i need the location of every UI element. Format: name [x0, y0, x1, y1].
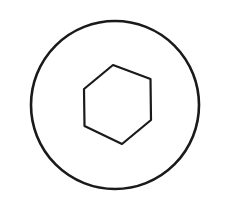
drawing-canvas: Hex socket end view Outer circle with an… — [0, 0, 228, 212]
figure-background — [0, 0, 228, 212]
technical-drawing-figure — [0, 0, 228, 212]
